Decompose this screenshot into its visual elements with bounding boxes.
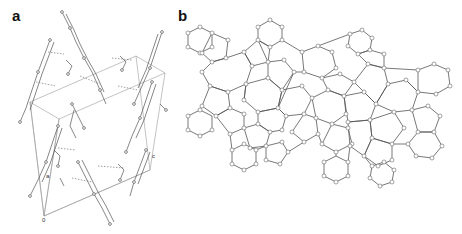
axis-label-a: a [46, 173, 50, 179]
molecule-chain-6 [78, 160, 114, 224]
axis-label-origin: 0 [42, 217, 46, 223]
ring-atoms [186, 18, 452, 188]
molecule-chain-8 [130, 150, 150, 196]
axis-label-c: c [152, 153, 155, 159]
panel-a-packing-diagram: a [0, 0, 178, 234]
panel-b-ring-network: b [172, 0, 462, 234]
ring-network-graphic [172, 0, 462, 234]
crystal-packing-graphic: 0 a c [0, 0, 178, 234]
